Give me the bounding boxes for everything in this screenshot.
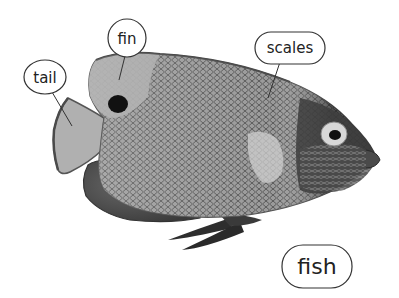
dorsal-eye-spot <box>108 95 128 113</box>
fish-illustration: tail fin scales fish <box>0 0 399 298</box>
label-fish: fish <box>282 245 352 288</box>
fin-label-text: fin <box>118 30 137 48</box>
fish-eye <box>321 122 347 146</box>
label-tail: tail <box>24 60 66 94</box>
scales-label-text: scales <box>267 39 314 57</box>
tail-label-text: tail <box>33 69 56 87</box>
label-scales: scales <box>255 32 325 64</box>
fish-diagram: tail fin scales fish <box>0 0 399 298</box>
label-fin: fin <box>108 19 146 57</box>
fish-title-text: fish <box>297 254 336 279</box>
